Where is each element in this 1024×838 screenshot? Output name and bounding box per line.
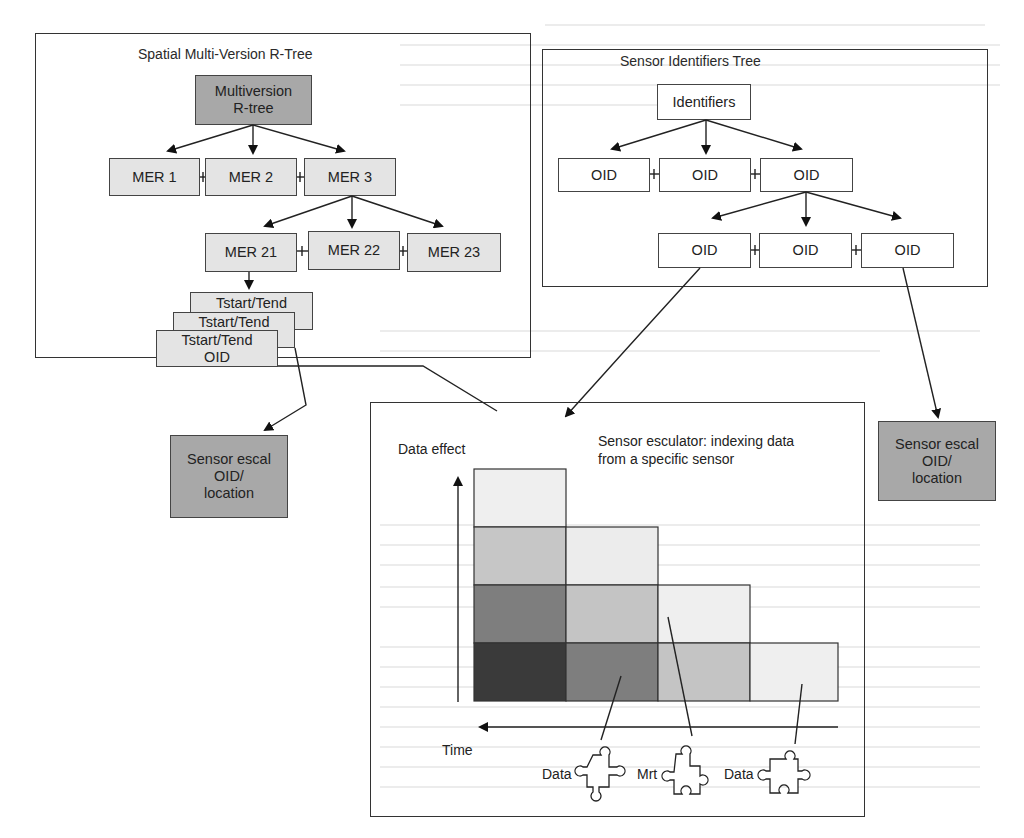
sensor-escal-left-line-2: OID/ [214,468,244,485]
oid-level1-node-1: OID [558,158,650,192]
escalator-title-line-1: Sensor esculator: indexing data [598,433,794,449]
sensor-escal-box-right: Sensor escal OID/ location [878,421,996,501]
time-record-front-label-1: Tstart/Tend [182,332,253,349]
sensor-escal-right-line-2: OID/ [922,453,952,470]
root-line-2: R-tree [233,100,273,117]
mer-22-label: MER 22 [328,242,380,259]
mer-2-label: MER 2 [229,169,273,186]
sensor-escal-left-line-1: Sensor escal [187,451,271,468]
oid-level1-node-3: OID [760,158,853,192]
identifiers-tree-title: Sensor Identifiers Tree [620,53,761,69]
mer-1-label: MER 1 [132,169,176,186]
piece-label-data-1: Data [542,766,572,782]
mer-21-node: MER 21 [205,233,297,272]
sensor-escal-left-line-3: location [204,485,254,502]
escalator-title-line-2: from a specific sensor [598,451,734,467]
mer-3-label: MER 3 [328,169,372,186]
root-line-1: Multiversion [215,83,292,100]
piece-label-mrt: Mrt [637,766,657,782]
mer-2-node: MER 2 [205,158,297,196]
oid-level1-label-1: OID [591,167,617,184]
oid-level2-label-1: OID [692,242,718,259]
y-axis-label: Data effect [398,441,465,457]
oid-level2-node-2: OID [759,233,852,268]
mer-1-node: MER 1 [109,158,200,196]
oid-level1-label-3: OID [794,167,820,184]
sensor-escal-right-line-3: location [912,470,962,487]
oid-level1-node-2: OID [659,158,751,192]
sensor-escal-box-left: Sensor escal OID/ location [170,435,288,518]
oid-level2-node-1: OID [658,233,751,268]
oid-level2-label-2: OID [793,242,819,259]
time-record-front-label-2: OID [204,349,230,366]
time-record-middle-label: Tstart/Tend [199,314,270,331]
oid-level2-node-3: OID [861,233,954,268]
multiversion-rtree-root-node: Multiversion R-tree [195,75,312,125]
oid-level1-label-2: OID [692,167,718,184]
identifiers-root-label: Identifiers [673,94,736,111]
spatial-tree-title: Spatial Multi-Version R-Tree [138,46,313,62]
mer-23-label: MER 23 [428,244,480,261]
oid-level2-label-3: OID [895,242,921,259]
mer-3-node: MER 3 [304,158,396,196]
piece-label-data-2: Data [724,766,754,782]
mer-22-node: MER 22 [308,231,400,270]
sensor-escal-right-line-1: Sensor escal [895,436,979,453]
mer-23-node: MER 23 [407,233,501,272]
time-record-front: Tstart/Tend OID [156,330,278,367]
identifiers-root-node: Identifiers [657,84,751,120]
mer-21-label: MER 21 [225,244,277,261]
x-axis-label: Time [442,742,473,758]
time-record-back-label: Tstart/Tend [216,295,287,312]
